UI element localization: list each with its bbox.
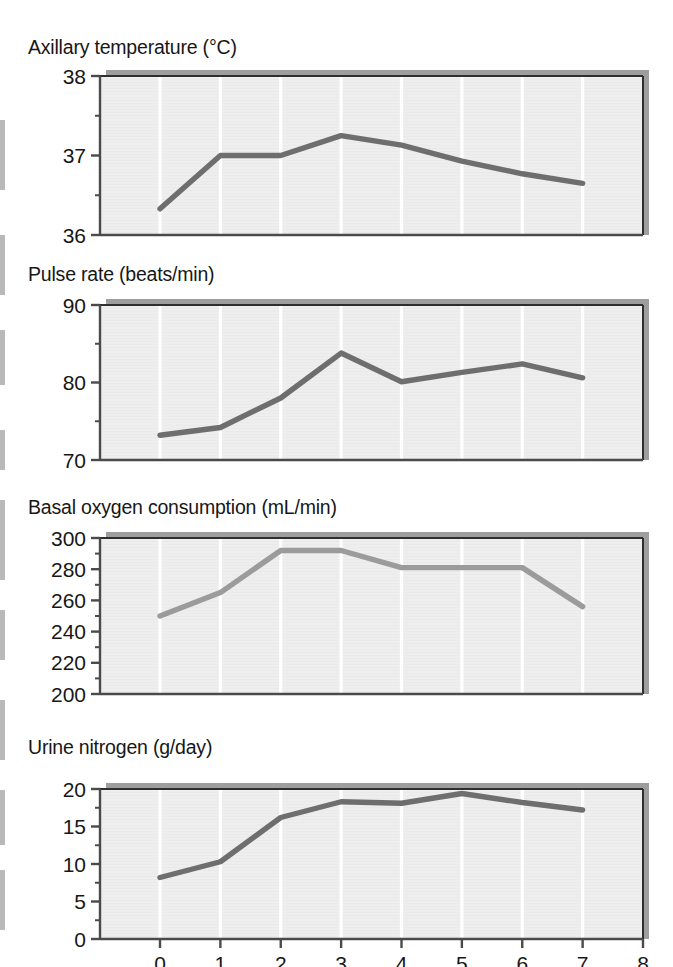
y-tick-label: 10 [63,853,86,876]
y-tick-label: 38 [63,65,86,88]
y-tick-label: 300 [51,527,86,550]
y-tick-label: 70 [63,449,86,472]
y-tick-label: 37 [63,144,86,167]
y-tick-label: 240 [51,620,86,643]
y-tick-label: 80 [63,371,86,394]
plot-urine-nitrogen: 05101520 012345678Days after injury [0,757,673,967]
y-tick-label: 260 [51,589,86,612]
x-tick-label: 2 [275,952,287,967]
panel-title-basal-oxygen-consumption: Basal oxygen consumption (mL/min) [28,496,337,519]
plot-svg-4: 05101520 012345678Days after injury [0,757,673,967]
plot-svg-2: 708090 [0,297,673,475]
plot-body-4: 05101520 [63,778,649,951]
y-tick-label: 5 [74,890,86,913]
plot-pulse-rate: 708090 [0,297,673,475]
y-tick-label: 280 [51,558,86,581]
plot-svg-3: 200220240260280300 [0,530,673,710]
y-tick-label: 90 [63,294,86,317]
y-tick-label: 20 [63,778,86,801]
x-tick-label: 3 [335,952,347,967]
y-tick-label: 200 [51,683,86,706]
x-axis-group: 012345678Days after injury [154,939,649,967]
x-tick-label: 5 [456,952,468,967]
x-tick-label: 4 [396,952,408,967]
plot-axillary-temperature: 363738 [0,68,673,250]
plot-body-2: 708090 [63,294,649,472]
panel-title-urine-nitrogen: Urine nitrogen (g/day) [28,736,212,759]
plot-body-3: 200220240260280300 [51,527,649,706]
x-tick-label: 7 [577,952,589,967]
plot-basal-oxygen-consumption: 200220240260280300 [0,530,673,710]
panel-title-axillary-temperature: Axillary temperature (°C) [28,36,237,59]
y-tick-label: 0 [74,928,86,951]
x-tick-label: 8 [637,952,649,967]
y-tick-label: 220 [51,651,86,674]
plot-svg-1: 363738 [0,68,673,250]
panel-basal-oxygen-consumption: Basal oxygen consumption (mL/min) 200220… [0,485,673,725]
x-tick-label: 6 [516,952,528,967]
x-tick-label: 1 [215,952,227,967]
panel-pulse-rate: Pulse rate (beats/min) 708090 [0,250,673,485]
panel-title-pulse-rate: Pulse rate (beats/min) [28,263,214,286]
y-tick-label: 36 [63,224,86,247]
plot-body-1: 363738 [63,65,649,247]
y-tick-label: 15 [63,815,86,838]
panel-urine-nitrogen: Urine nitrogen (g/day) 05101520 01234567… [0,725,673,966]
panel-axillary-temperature: Axillary temperature (°C) 363738 [0,0,673,250]
x-tick-label: 0 [154,952,166,967]
